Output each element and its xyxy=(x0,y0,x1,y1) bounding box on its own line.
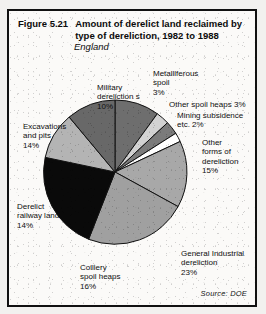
figure-box: Figure 5.21 Amount of derelict land recl… xyxy=(7,9,257,307)
pie-label-other-forms: Other forms of dereliction 15% xyxy=(202,138,257,175)
source-note: Source: DOE xyxy=(201,289,247,298)
pie-label-excavations-and-pits: Excavations and pits 14% xyxy=(23,122,89,150)
pie-chart-area: Military dereliction s 10% Metalliferous… xyxy=(9,11,255,305)
pie-label-general-industrial: General Industrial dereliction 23% xyxy=(181,249,257,277)
pie-label-colliery-spoil-heaps: Colliery spoil heaps 16% xyxy=(80,263,142,291)
page-background: Figure 5.21 Amount of derelict land recl… xyxy=(0,0,266,314)
pie-label-derelict-railway-land: Derelict railway land 14% xyxy=(17,202,85,230)
pie-label-metalliferous-spoil: Metalliferous spoil 3% xyxy=(153,69,213,97)
pie-label-military-derelictions: Military dereliction s 10% xyxy=(97,83,153,111)
pie-label-mining-subsidence: Mining subsidence etc. 2% xyxy=(177,111,255,130)
pie-label-other-spoil-heaps: Other spoil heaps 3% xyxy=(169,100,255,109)
